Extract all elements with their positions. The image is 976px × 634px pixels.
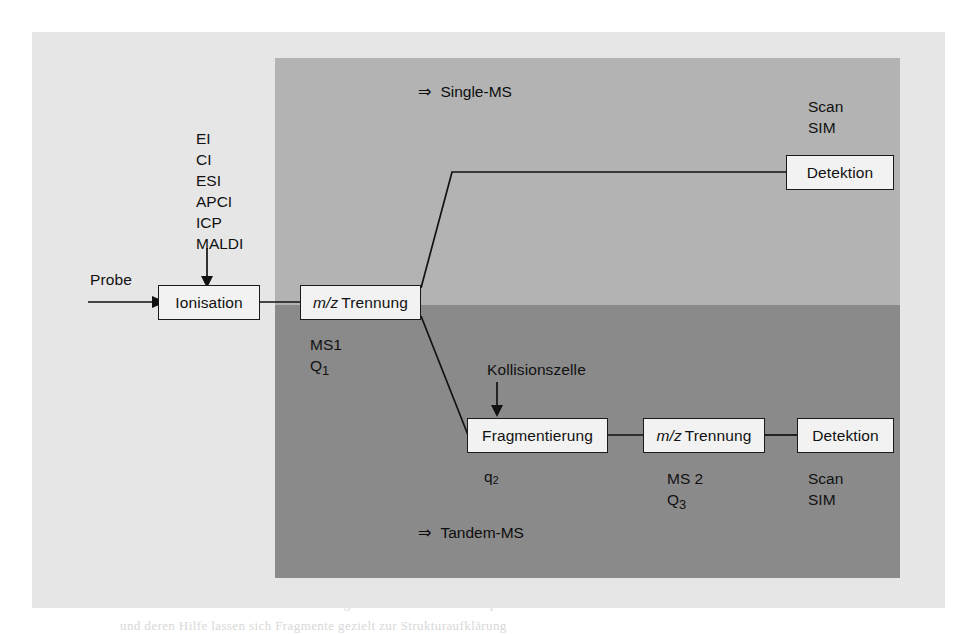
fragmentation-box-label: Fragmentierung bbox=[482, 427, 593, 445]
ionisation-method-item: ICP bbox=[196, 212, 243, 233]
ms2-annotation-line2: Q3 bbox=[667, 489, 703, 515]
single-ms-region-label: Single-MS bbox=[440, 83, 512, 100]
ghost-text-line: und deren Hilfe lassen sich Fragmente ge… bbox=[120, 618, 507, 634]
tandem-ms-region-label: Tandem-MS bbox=[440, 524, 524, 541]
single-ms-detection-box[interactable]: Detektion bbox=[786, 155, 894, 190]
ms2-box-label: Trennung bbox=[685, 427, 752, 445]
ms1-annotation-line2: Q1 bbox=[310, 355, 342, 381]
single-ms-detector-modes: Scan SIM bbox=[808, 96, 843, 138]
ms2-annotation-line1: MS 2 bbox=[667, 468, 703, 489]
tandem-detection-label: Detektion bbox=[812, 427, 878, 445]
ionisation-method-item: CI bbox=[196, 149, 243, 170]
ms1-annotation-line1: MS1 bbox=[310, 334, 342, 355]
tandem-detection-box[interactable]: Detektion bbox=[797, 418, 894, 453]
ionisation-method-item: APCI bbox=[196, 191, 243, 212]
collision-cell-label: Kollisionszelle bbox=[487, 361, 586, 379]
sample-label: Probe bbox=[90, 271, 132, 289]
double-arrow-icon: ⇒ bbox=[418, 82, 431, 101]
ms1-box-prefix: m/z bbox=[313, 294, 338, 312]
ionisation-method-item: EI bbox=[196, 128, 243, 149]
single-ms-detection-label: Detektion bbox=[807, 164, 873, 182]
ms1-separation-box[interactable]: m/zTrennung bbox=[300, 285, 421, 320]
ionisation-methods-list: EI CI ESI APCI ICP MALDI bbox=[196, 128, 243, 254]
ionisation-method-item: MALDI bbox=[196, 233, 243, 254]
fragmentation-annotation: q2 bbox=[484, 468, 499, 486]
ionisation-box-label: Ionisation bbox=[175, 294, 242, 312]
double-arrow-icon: ⇒ bbox=[418, 523, 431, 542]
ionisation-method-item: ESI bbox=[196, 170, 243, 191]
tandem-ms-region-tag: ⇒Tandem-MS bbox=[418, 523, 524, 542]
tandem-mode-line1: Scan bbox=[808, 468, 843, 489]
tandem-mode-line2: SIM bbox=[808, 489, 843, 510]
fragmentation-box[interactable]: Fragmentierung bbox=[467, 418, 608, 453]
single-ms-mode-line1: Scan bbox=[808, 96, 843, 117]
figure-canvas: Kapitel 5 · Grundlagen der Massenspektro… bbox=[0, 0, 976, 634]
single-ms-region-tag: ⇒Single-MS bbox=[418, 82, 512, 101]
tandem-detector-modes: Scan SIM bbox=[808, 468, 843, 510]
ms1-annotation: MS1 Q1 bbox=[310, 334, 342, 381]
ms2-annotation: MS 2 Q3 bbox=[667, 468, 703, 515]
single-ms-mode-line2: SIM bbox=[808, 117, 843, 138]
ms1-box-label: Trennung bbox=[341, 294, 408, 312]
ms2-box-prefix: m/z bbox=[657, 427, 682, 445]
ionisation-box[interactable]: Ionisation bbox=[158, 285, 260, 320]
ms2-separation-box[interactable]: m/zTrennung bbox=[643, 418, 765, 453]
